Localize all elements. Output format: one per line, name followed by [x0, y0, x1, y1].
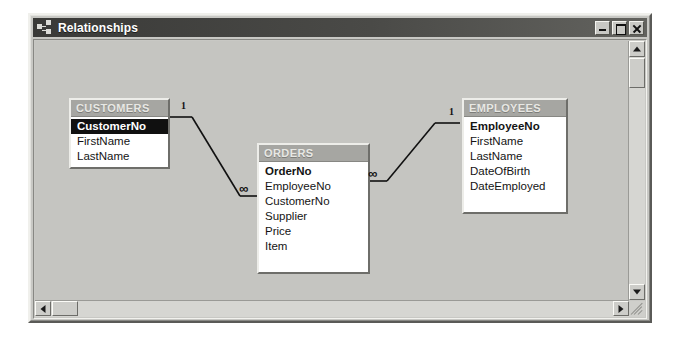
- arrow-down-icon: [633, 290, 641, 295]
- field-employees-dateofbirth[interactable]: DateOfBirth: [464, 164, 566, 179]
- field-orders-blank: [259, 254, 368, 269]
- field-orders-customerno[interactable]: CustomerNo: [259, 194, 368, 209]
- close-button[interactable]: [629, 21, 644, 35]
- horizontal-scroll-thumb[interactable]: [52, 301, 78, 316]
- table-box-employees[interactable]: EMPLOYEES EmployeeNo FirstName LastName …: [462, 98, 568, 214]
- scroll-up-button[interactable]: [629, 41, 645, 57]
- minimize-button[interactable]: [595, 21, 610, 35]
- cardinality-many-orders-right: ∞: [368, 167, 377, 180]
- arrow-right-icon: [619, 305, 624, 313]
- cardinality-many-orders-left: ∞: [239, 182, 248, 195]
- table-box-orders[interactable]: ORDERS OrderNo EmployeeNo CustomerNo Sup…: [257, 143, 370, 274]
- window-titlebar[interactable]: Relationships: [33, 18, 647, 37]
- field-employees-blank: [464, 194, 566, 209]
- table-fields-employees: EmployeeNo FirstName LastName DateOfBirt…: [464, 117, 566, 212]
- screenshot-root: Relationships: [0, 0, 680, 345]
- table-title-customers: CUSTOMERS: [71, 100, 168, 117]
- window-controls: [595, 21, 645, 35]
- field-customers-customerno[interactable]: CustomerNo: [71, 119, 168, 134]
- resize-grip[interactable]: [629, 301, 645, 317]
- vertical-scrollbar[interactable]: [628, 41, 645, 300]
- window-title: Relationships: [58, 21, 138, 35]
- window-client-area: 1 ∞ ∞ 1 CUSTOMERS CustomerNo FirstName L…: [33, 39, 647, 319]
- relationships-canvas[interactable]: 1 ∞ ∞ 1 CUSTOMERS CustomerNo FirstName L…: [35, 41, 629, 300]
- field-orders-item[interactable]: Item: [259, 239, 368, 254]
- field-employees-lastname[interactable]: LastName: [464, 149, 566, 164]
- field-orders-price[interactable]: Price: [259, 224, 368, 239]
- cardinality-one-employees: 1: [449, 106, 454, 117]
- relationships-window: Relationships: [28, 13, 652, 323]
- field-orders-orderno[interactable]: OrderNo: [259, 164, 368, 179]
- field-customers-lastname[interactable]: LastName: [71, 149, 168, 164]
- relationship-line-orders-employees: [367, 123, 460, 181]
- arrow-left-icon: [41, 305, 46, 313]
- field-orders-supplier[interactable]: Supplier: [259, 209, 368, 224]
- field-employees-firstname[interactable]: FirstName: [464, 134, 566, 149]
- vertical-scroll-thumb[interactable]: [629, 58, 645, 88]
- field-employees-employeeno[interactable]: EmployeeNo: [464, 119, 566, 134]
- arrow-up-icon: [633, 47, 641, 52]
- table-box-customers[interactable]: CUSTOMERS CustomerNo FirstName LastName: [69, 98, 170, 169]
- field-orders-employeeno[interactable]: EmployeeNo: [259, 179, 368, 194]
- scroll-left-button[interactable]: [35, 301, 51, 316]
- relationships-icon: [37, 20, 53, 35]
- table-title-employees: EMPLOYEES: [464, 100, 566, 117]
- table-fields-customers: CustomerNo FirstName LastName: [71, 117, 168, 167]
- scroll-right-button[interactable]: [613, 301, 629, 316]
- table-title-orders: ORDERS: [259, 145, 368, 162]
- field-employees-dateemployed[interactable]: DateEmployed: [464, 179, 566, 194]
- table-fields-orders: OrderNo EmployeeNo CustomerNo Supplier P…: [259, 162, 368, 272]
- cardinality-one-customers: 1: [181, 100, 186, 111]
- scroll-down-button[interactable]: [629, 284, 645, 300]
- field-customers-firstname[interactable]: FirstName: [71, 134, 168, 149]
- horizontal-scrollbar[interactable]: [35, 300, 629, 317]
- maximize-button[interactable]: [612, 21, 627, 35]
